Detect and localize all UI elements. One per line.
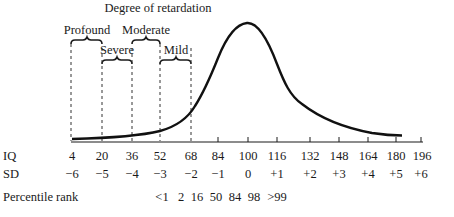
sd-value: −4 [125,167,139,181]
distribution-curve [72,23,402,139]
iq-distribution-chart: Degree of retardation Profound Severe Mo… [0,0,454,217]
chart-title: Degree of retardation [105,1,213,15]
sd-values: −6 −5 −4 −3 −2 −1 0 +1 +2 +3 +4 +5 +6 [65,167,427,181]
x-axis-ticks [218,137,421,142]
iq-value: 4 [69,149,76,163]
category-label-profound: Profound [64,23,111,37]
iq-value: 68 [185,149,198,163]
sd-value: +3 [332,167,345,181]
percentile-values: <1 2 16 50 84 98 >99 [155,190,286,204]
iq-value: 36 [126,149,139,163]
category-label-mild: Mild [164,43,189,57]
iq-value: 20 [96,149,109,163]
percentile-value: 84 [229,190,242,204]
brace-mild [160,57,191,64]
iq-value: 52 [154,149,167,163]
iq-value: 100 [239,149,258,163]
sd-value: +5 [389,167,402,181]
sd-row-label: SD [3,167,19,181]
sd-value: +4 [361,167,375,181]
percentile-value: 98 [248,190,261,204]
sd-value: +6 [414,167,427,181]
iq-value: 116 [268,149,286,163]
percentile-row-label: Percentile rank [3,190,79,204]
iq-value: 196 [413,149,432,163]
sd-value: −2 [184,167,197,181]
brace-moderate [132,37,160,44]
sd-value: 0 [245,167,251,181]
brace-severe [102,57,132,64]
iq-value: 84 [212,149,225,163]
iq-value: 148 [330,149,349,163]
sd-value: +1 [270,167,283,181]
brace-profound [71,37,102,44]
sd-value: −3 [153,167,166,181]
percentile-value: 2 [178,190,184,204]
category-label-moderate: Moderate [122,23,170,37]
category-label-severe: Severe [100,43,134,57]
percentile-value: 16 [191,190,204,204]
percentile-value: <1 [155,190,168,204]
iq-value: 180 [387,149,406,163]
percentile-value: 50 [210,190,223,204]
iq-values: 4 20 36 52 68 84 100 116 132 148 164 180… [69,149,432,163]
iq-row-label: IQ [3,149,16,163]
iq-value: 164 [359,149,379,163]
sd-value: +2 [303,167,316,181]
percentile-value: >99 [267,190,287,204]
sd-value: −5 [95,167,108,181]
iq-value: 132 [301,149,320,163]
sd-value: −6 [65,167,78,181]
sd-value: −1 [211,167,224,181]
